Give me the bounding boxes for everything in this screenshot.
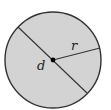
diameter-label: d — [37, 58, 45, 73]
radius-label: r — [71, 38, 78, 53]
circle-diagram: d r — [0, 0, 111, 110]
center-point — [51, 58, 56, 63]
